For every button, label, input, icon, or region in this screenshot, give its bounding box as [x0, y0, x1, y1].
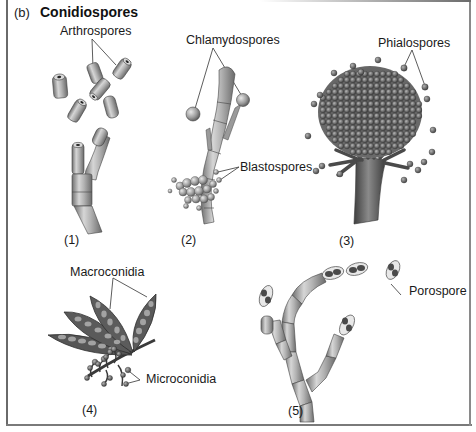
phialospores-illustration	[305, 50, 436, 224]
illustration-canvas	[0, 0, 476, 432]
conidiospores-figure: (b) Conidiospores Arthrospores Chlamydos…	[0, 0, 476, 432]
label-chlamydospores: Chlamydospores	[186, 33, 280, 47]
label-macroconidia: Macroconidia	[70, 265, 144, 279]
porospore-illustration	[257, 258, 403, 422]
subpanel-number-5: (5)	[288, 404, 303, 418]
subpanel-number-2: (2)	[181, 233, 196, 247]
subpanel-number-3: (3)	[339, 234, 354, 248]
subpanel-number-4: (4)	[82, 403, 97, 417]
figure-title: Conidiospores	[40, 4, 138, 20]
panel-tag: (b)	[14, 5, 30, 20]
label-blastospores: Blastospores	[240, 160, 312, 174]
label-arthrospores: Arthrospores	[60, 24, 132, 38]
subpanel-number-1: (1)	[64, 233, 79, 247]
label-microconidia: Microconidia	[146, 372, 216, 386]
label-phialospores: Phialospores	[378, 36, 450, 50]
label-porospore: Porospore	[409, 284, 467, 298]
arthrospores-illustration	[52, 39, 134, 234]
